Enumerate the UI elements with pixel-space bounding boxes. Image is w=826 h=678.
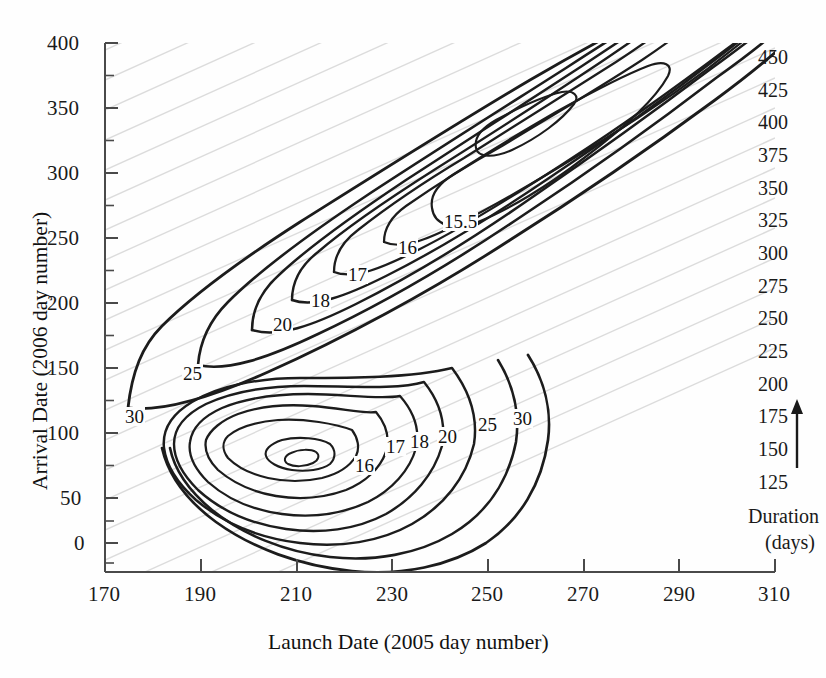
contour-label-upper-18: 18 bbox=[310, 291, 331, 310]
contour-label-lower-30: 30 bbox=[512, 409, 533, 428]
y-tick-350: 350 bbox=[47, 98, 79, 119]
contour-label-upper-17: 17 bbox=[347, 265, 368, 284]
contour-label-lower-18: 18 bbox=[409, 432, 430, 451]
duration-caption-line1: Duration bbox=[748, 505, 819, 528]
duration-tick-125: 125 bbox=[758, 472, 788, 492]
duration-tick-350: 350 bbox=[758, 178, 788, 198]
x-axis-label: Launch Date (2005 day number) bbox=[268, 630, 549, 655]
y-tick-50: 50 bbox=[60, 488, 81, 509]
duration-tick-375: 375 bbox=[758, 145, 788, 165]
y-tick-300: 300 bbox=[47, 163, 79, 184]
contour-label-upper-15-5: 15.5 bbox=[443, 212, 478, 231]
duration-tick-250: 250 bbox=[758, 308, 788, 328]
x-tick-270: 270 bbox=[567, 584, 599, 605]
contour-label-upper-30: 30 bbox=[124, 407, 145, 426]
y-axis-label: Arrival Date (2006 day number) bbox=[28, 212, 53, 490]
duration-tick-275: 275 bbox=[758, 276, 788, 296]
duration-tick-300: 300 bbox=[758, 243, 788, 263]
duration-tick-150: 150 bbox=[758, 439, 788, 459]
x-tick-310: 310 bbox=[758, 584, 790, 605]
contour-label-lower-17: 17 bbox=[385, 437, 406, 456]
x-tick-210: 210 bbox=[280, 584, 312, 605]
contour-label-lower-20: 20 bbox=[437, 427, 458, 446]
contour-label-upper-20: 20 bbox=[272, 315, 293, 334]
contour-plot-canvas bbox=[0, 0, 826, 678]
contour-label-upper-25: 25 bbox=[182, 364, 203, 383]
duration-tick-425: 425 bbox=[758, 80, 788, 100]
duration-tick-400: 400 bbox=[758, 112, 788, 132]
duration-tick-325: 325 bbox=[758, 210, 788, 230]
duration-caption-line2: (days) bbox=[765, 531, 815, 554]
x-tick-230: 230 bbox=[376, 584, 408, 605]
x-tick-250: 250 bbox=[471, 584, 503, 605]
porkchop-plot-figure: 400 350 300 250 200 150 100 50 0 170 190… bbox=[0, 0, 826, 678]
x-tick-170: 170 bbox=[88, 584, 120, 605]
duration-tick-200: 200 bbox=[758, 374, 788, 394]
contour-label-upper-16: 16 bbox=[397, 238, 418, 257]
y-tick-400: 400 bbox=[47, 33, 79, 54]
duration-tick-175: 175 bbox=[758, 406, 788, 426]
x-tick-290: 290 bbox=[663, 584, 695, 605]
duration-tick-225: 225 bbox=[758, 341, 788, 361]
contour-label-lower-16: 16 bbox=[354, 456, 375, 475]
y-tick-0: 0 bbox=[74, 533, 85, 554]
duration-tick-450: 450 bbox=[758, 47, 788, 67]
contour-label-lower-25: 25 bbox=[477, 415, 498, 434]
x-tick-190: 190 bbox=[184, 584, 216, 605]
